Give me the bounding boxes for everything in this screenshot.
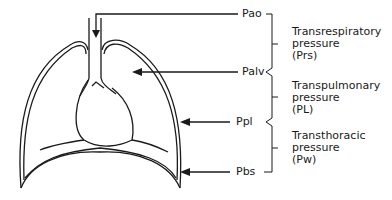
label-pao: Pao	[242, 8, 262, 20]
heart	[40, 80, 168, 152]
label-palv: Palv	[242, 66, 264, 78]
group-transrespiratory: Transrespiratory pressure (Prs)	[292, 26, 381, 62]
group-transpulmonary: Transpulmonary pressure (PL)	[292, 80, 380, 116]
pressure-brackets	[264, 14, 278, 172]
group-abbrev: (Pw)	[292, 154, 366, 166]
label-pbs: Pbs	[236, 166, 255, 178]
group-abbrev: (PL)	[292, 104, 380, 116]
group-transthoracic: Transthoracic pressure (Pw)	[292, 130, 366, 166]
chest-wall	[20, 40, 181, 188]
group-abbrev: (Prs)	[292, 50, 381, 62]
label-ppl: Ppl	[236, 116, 253, 128]
